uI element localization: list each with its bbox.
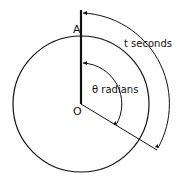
circle-diagram: A O θ radians t seconds xyxy=(0,0,182,186)
label-time: t seconds xyxy=(124,38,172,49)
label-o: O xyxy=(73,105,82,118)
time-arrow-start-icon xyxy=(83,11,87,15)
theta-arrow-end-icon xyxy=(113,121,116,125)
label-theta: θ radians xyxy=(92,84,138,95)
label-a: A xyxy=(73,23,81,36)
time-arc xyxy=(83,13,169,148)
time-arrow-end-icon xyxy=(155,144,158,148)
theta-arrow-start-icon xyxy=(83,61,87,65)
